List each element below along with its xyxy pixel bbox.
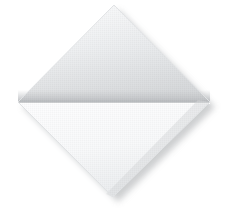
napkin xyxy=(0,0,235,213)
napkin-svg xyxy=(0,0,235,213)
napkin-lower-panel xyxy=(18,102,210,197)
upper-flap-sheen xyxy=(18,5,210,102)
product-photo: White folded napkin in diamond orientati… xyxy=(0,0,235,213)
fold-seam-band xyxy=(18,90,210,102)
